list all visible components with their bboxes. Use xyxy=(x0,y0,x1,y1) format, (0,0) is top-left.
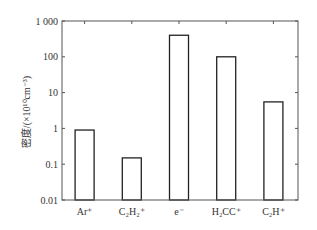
x-tick-label: C₂H⁺ xyxy=(262,206,284,217)
bars-group xyxy=(75,35,283,200)
bar-chart: 1 0001001010.10.01 Ar⁺C₂H₂⁺e⁻H₂CC⁺C₂H⁺ 密… xyxy=(0,0,317,230)
x-tick-label: H₂CC⁺ xyxy=(212,206,241,217)
y-axis-label: 密度/(×10¹⁰cm⁻³) xyxy=(20,76,33,148)
bar xyxy=(75,130,94,200)
y-tick-label: 100 xyxy=(43,51,58,62)
x-tick-label: C₂H₂⁺ xyxy=(119,206,145,217)
bar xyxy=(217,57,236,200)
y-tick-label: 0.01 xyxy=(41,195,59,206)
bar xyxy=(170,35,189,200)
x-tick-label: Ar⁺ xyxy=(77,206,93,217)
y-tick-label: 10 xyxy=(48,87,58,98)
bar xyxy=(264,102,283,200)
y-tick-label: 1 000 xyxy=(36,16,59,27)
bar xyxy=(122,158,141,200)
y-tick-label: 0.1 xyxy=(46,159,59,170)
x-tick-label: e⁻ xyxy=(174,206,183,217)
y-tick-label: 1 xyxy=(53,123,58,134)
